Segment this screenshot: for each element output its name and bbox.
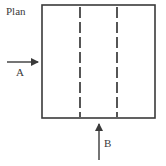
diagram-title: Plan (6, 6, 26, 17)
arrow-b-label: B (104, 138, 111, 149)
plan-square (42, 5, 155, 118)
arrow-a-label: A (16, 67, 24, 78)
plan-diagram-canvas (0, 0, 166, 166)
